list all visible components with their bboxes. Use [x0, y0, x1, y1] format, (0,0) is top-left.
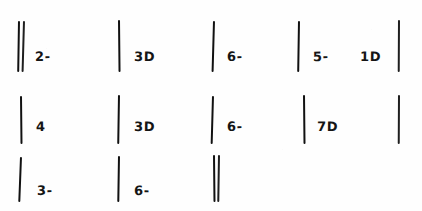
tally-stroke	[213, 155, 215, 202]
tally-stroke	[118, 20, 121, 72]
tally-stroke	[217, 155, 220, 202]
tally-label-r2c4: 7D	[317, 120, 338, 133]
tally-stroke	[297, 21, 300, 72]
tally-stroke	[22, 21, 25, 72]
tally-label-r1c2: 3D	[134, 50, 155, 63]
tally-label-r1c4: 5-	[313, 50, 329, 63]
tally-stroke	[398, 95, 400, 144]
tally-label-r3c1: 3-	[37, 184, 53, 197]
tally-stroke	[18, 157, 22, 202]
tally-label-r1c5: 1D	[360, 50, 381, 63]
tally-sheet: 2- 3D 6- 5- 1D 4 3D 6- 7D 3- 6-	[0, 0, 422, 211]
tally-label-r2c1: 4	[36, 120, 46, 133]
tally-stroke	[20, 96, 23, 144]
tally-stroke	[212, 21, 215, 72]
tally-label-r2c3: 6-	[227, 120, 243, 133]
tally-stroke	[211, 96, 214, 144]
tally-stroke	[398, 20, 400, 72]
tally-label-r3c2: 6-	[134, 184, 150, 197]
tally-label-r1c3: 6-	[227, 50, 243, 63]
tally-label-r2c2: 3D	[134, 120, 155, 133]
tally-stroke	[117, 156, 120, 202]
tally-label-r1c1: 2-	[35, 50, 51, 63]
tally-stroke	[117, 95, 120, 144]
tally-stroke	[303, 95, 306, 144]
tally-stroke	[17, 21, 20, 72]
